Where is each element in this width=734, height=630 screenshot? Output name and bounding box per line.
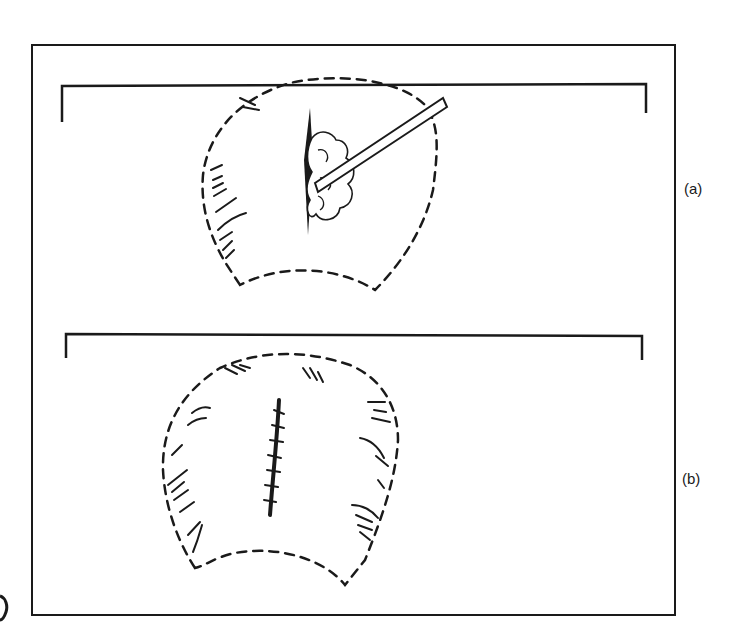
- hatching-a: [211, 98, 259, 258]
- clipped-glyph-fragment: [0, 596, 7, 620]
- diagram-canvas: [0, 0, 734, 630]
- sutured-incision-b: [264, 400, 284, 515]
- outer-frame: [32, 45, 675, 615]
- panel-label-a: (a): [684, 180, 702, 197]
- panel-label-b: (b): [682, 470, 700, 487]
- flap-outline-b: [163, 354, 398, 585]
- bracket-a: [62, 84, 646, 122]
- bracket-b: [66, 334, 642, 360]
